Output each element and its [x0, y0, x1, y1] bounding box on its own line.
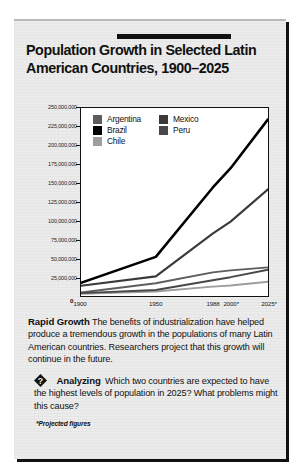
legend-swatch-mexico [159, 115, 168, 124]
x-axis-labels: 1900195019882000*2025* [14, 300, 286, 312]
y-axis-tick-label: 250,000,000 [48, 104, 77, 110]
legend-swatch-brazil [93, 126, 102, 135]
chart-title: Population Growth in Selected Latin Amer… [26, 41, 263, 76]
chart-legend: ArgentinaMexicoBrazilPeruChile [93, 114, 198, 146]
series-line-mexico [81, 189, 268, 286]
legend-swatch-argentina [93, 115, 102, 124]
y-axis-tick-label: 75,000,000 [51, 237, 77, 243]
feature-box: Population Growth in Selected Latin Amer… [14, 19, 286, 459]
legend-entry-chile: Chile [93, 136, 141, 146]
legend-label-mexico: Mexico [173, 114, 198, 124]
y-axis-tick-label: 25,000,000 [51, 275, 77, 281]
y-axis-tick-label: 200,000,000 [48, 142, 77, 148]
analyzing-question: ? Analyzing Which two countries are expe… [34, 374, 278, 412]
y-axis-labels: 250,000,000225,000,000200,000,000175,000… [14, 81, 77, 306]
legend-swatch-chile [93, 137, 102, 146]
y-axis-tick-label: 175,000,000 [48, 161, 77, 167]
x-axis-tick-label: 2000* [223, 300, 238, 307]
x-axis-tick-label: 1950 [149, 300, 162, 307]
x-axis-tick-label: 1900 [73, 300, 86, 307]
legend-swatch-peru [159, 126, 168, 135]
legend-label-brazil: Brazil [107, 125, 127, 135]
question-diamond-icon: ? [34, 374, 47, 387]
legend-label-argentina: Argentina [107, 114, 141, 124]
legend-label-chile: Chile [107, 136, 125, 146]
legend-entry-argentina: Argentina [93, 114, 141, 124]
y-axis-tick-label: 50,000,000 [51, 256, 77, 262]
legend-label-peru: Peru [173, 125, 190, 135]
footnote: *Projected figures [36, 420, 91, 427]
y-axis-tick-label: 125,000,000 [48, 199, 77, 205]
chart: 250,000,000225,000,000200,000,000175,000… [14, 81, 286, 306]
svg-text:?: ? [38, 376, 43, 386]
x-axis-tick-label: 2025* [261, 300, 276, 307]
y-axis-tick-label: 225,000,000 [48, 123, 77, 129]
legend-entry-brazil: Brazil [93, 125, 141, 135]
top-tab-decoration [117, 34, 231, 39]
body-lead-label: Rapid Growth [28, 316, 90, 327]
x-axis-tick-label: 1988 [206, 300, 219, 307]
analyzing-lead-label: Analyzing [56, 375, 100, 386]
legend-entry-mexico: Mexico [159, 114, 198, 124]
plot-area: ArgentinaMexicoBrazilPeruChile [80, 107, 269, 297]
series-line-argentina [81, 267, 268, 292]
legend-entry-peru: Peru [159, 125, 198, 135]
y-axis-tick-label: 150,000,000 [48, 180, 77, 186]
y-axis-tick-label: 100,000,000 [48, 218, 77, 224]
body-paragraph: Rapid Growth The benefits of industriali… [28, 316, 276, 365]
